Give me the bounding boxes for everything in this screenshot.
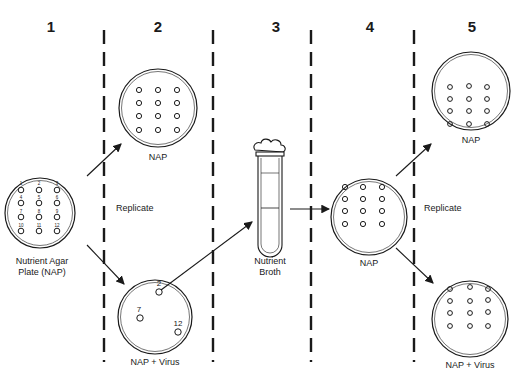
test-tube-broth [254, 139, 285, 257]
label-nap-step2: NAP [138, 152, 178, 163]
label-nap-virus-step2: NAP + Virus [125, 357, 185, 368]
step-number-2: 2 [148, 18, 168, 35]
svg-text:7: 7 [137, 305, 142, 314]
svg-text:5: 5 [38, 195, 41, 200]
arrow-master-to-virus [87, 245, 124, 284]
label-nap-step5: NAP [451, 135, 491, 146]
plate-nap-step2 [119, 69, 197, 147]
label-nap-virus-step5: NAP + Virus [440, 360, 500, 371]
svg-text:12: 12 [174, 319, 183, 328]
label-replicate-right: Replicate [424, 203, 462, 214]
arrow-colony2-to-broth [161, 222, 252, 290]
plate-nap-step5 [432, 52, 510, 130]
plate-nap-virus-step5 [432, 281, 508, 357]
svg-text:6: 6 [56, 195, 59, 200]
label-nap-step4: NAP [349, 258, 389, 269]
svg-text:7: 7 [20, 209, 23, 214]
step-number-4: 4 [360, 18, 380, 35]
svg-text:10: 10 [18, 223, 24, 228]
label-master-plate-line2: Plate (NAP) [12, 267, 72, 278]
label-master-plate-line1: Nutrient Agar [12, 256, 72, 267]
label-replicate-left: Replicate [116, 203, 154, 214]
label-master-plate: Nutrient Agar Plate (NAP) [12, 256, 72, 278]
replica-plating-diagram: 123 456 789 101112 2 7 12 [0, 0, 525, 376]
svg-text:4: 4 [20, 195, 23, 200]
svg-text:12: 12 [54, 223, 60, 228]
master-plate: 123 456 789 101112 [5, 178, 75, 248]
plate-nap-step4 [331, 179, 407, 255]
svg-text:8: 8 [38, 209, 41, 214]
svg-text:11: 11 [37, 223, 42, 228]
svg-text:2: 2 [157, 279, 162, 288]
label-broth: Nutrient Broth [245, 256, 295, 278]
step-number-1: 1 [41, 18, 61, 35]
svg-text:9: 9 [56, 209, 59, 214]
step-number-5: 5 [462, 18, 482, 35]
step-dividers [104, 30, 414, 362]
label-broth-line2: Broth [245, 267, 295, 278]
step-number-3: 3 [266, 18, 286, 35]
label-broth-line1: Nutrient [245, 256, 295, 267]
svg-text:2: 2 [38, 181, 41, 186]
plate-nap-virus-step2: 2 7 12 [118, 279, 192, 354]
